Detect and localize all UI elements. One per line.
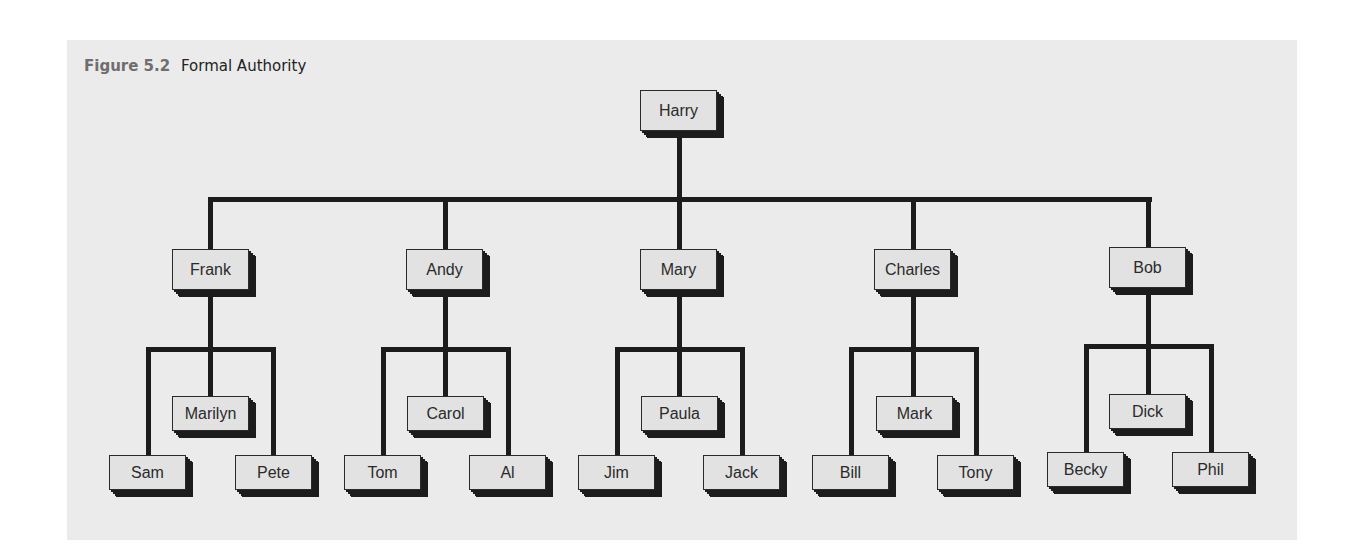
node-pete: Pete [235, 455, 312, 490]
connector-jack-up [740, 347, 745, 456]
connector-andy-bar [381, 347, 511, 352]
connector-pete-up [271, 347, 276, 456]
node-mark: Mark [876, 396, 953, 431]
connector-charles-up [911, 197, 916, 249]
node-carol: Carol [407, 396, 484, 431]
node-charles: Charles [874, 249, 951, 290]
node-tony: Tony [937, 455, 1014, 490]
connector-bill-up [849, 347, 854, 456]
connector-root-down [677, 130, 682, 202]
node-jim: Jim [578, 455, 655, 490]
node-jack: Jack [703, 455, 780, 490]
connector-bob-down [1146, 288, 1151, 396]
connector-becky-up [1084, 344, 1089, 453]
node-tom: Tom [344, 455, 421, 490]
connector-bob-bar [1084, 344, 1214, 349]
connector-mary-up [677, 197, 682, 249]
connector-phil-up [1209, 344, 1214, 453]
connector-andy-down [443, 290, 448, 397]
connector-jim-up [615, 347, 620, 456]
node-mary: Mary [640, 249, 717, 290]
connector-sam-up [146, 347, 151, 456]
node-andy: Andy [406, 249, 483, 290]
connector-tom-up [381, 347, 386, 456]
node-sam: Sam [109, 455, 186, 490]
node-dick: Dick [1109, 394, 1186, 429]
node-bill: Bill [812, 455, 889, 490]
connector-charles-bar [849, 347, 979, 352]
node-bob: Bob [1109, 247, 1186, 288]
connector-frank-down [208, 290, 213, 397]
node-phil: Phil [1172, 452, 1249, 487]
connector-al-up [506, 347, 511, 456]
node-paula: Paula [641, 396, 718, 431]
connector-frank-up [208, 197, 213, 249]
figure-label: Figure 5.2 [84, 57, 170, 75]
connector-bob-up [1146, 197, 1151, 247]
figure-title: Formal Authority [181, 57, 306, 75]
connector-mary-bar [615, 347, 745, 352]
connector-frank-bar [146, 347, 276, 352]
connector-andy-up [443, 197, 448, 249]
node-marilyn: Marilyn [172, 396, 249, 431]
connector-tony-up [974, 347, 979, 456]
node-frank: Frank [172, 249, 249, 290]
node-becky: Becky [1047, 452, 1124, 487]
connector-mary-down [677, 290, 682, 397]
node-al: Al [469, 455, 546, 490]
connector-charles-down [911, 290, 916, 397]
figure-caption: Figure 5.2 Formal Authority [84, 57, 306, 75]
node-harry: Harry [640, 90, 717, 131]
